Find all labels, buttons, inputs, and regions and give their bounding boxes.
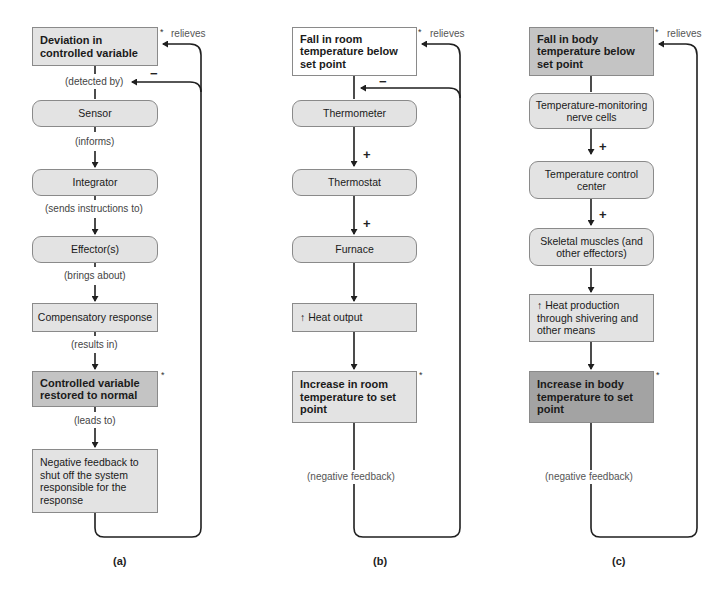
sensor-box: Sensor (32, 100, 158, 127)
asterisk: * (419, 371, 423, 380)
minus-sign: − (150, 68, 158, 80)
heat-output-text: ↑ Heat output (300, 311, 362, 324)
room-temp-increase-box: Increase in room temperature to set poin… (292, 371, 417, 423)
effector-box: Effector(s) (32, 236, 158, 263)
furnace-text: Furnace (335, 243, 374, 256)
integrator-text: Integrator (73, 176, 118, 189)
restored-text: Controlled variable restored to normal (40, 377, 150, 402)
body-temp-fall-box: Fall in body temperature below set point (529, 27, 654, 76)
negative-feedback-label: (negative feedback) (307, 470, 395, 484)
connector-brings-about: (brings about) (63, 270, 127, 282)
thermostat-text: Thermostat (328, 176, 381, 189)
negative-feedback-label: (negative feedback) (545, 470, 633, 484)
restored-box: Controlled variable restored to normal (32, 371, 158, 407)
connector-sends-instructions: (sends instructions to) (44, 203, 144, 215)
body-temp-fall-text: Fall in body temperature below set point (537, 33, 646, 71)
connector-results-in: (results in) (70, 339, 119, 351)
heat-production-box: ↑ Heat production through shivering and … (529, 294, 654, 342)
deviation-text: Deviation in controlled variable (40, 34, 150, 59)
room-temp-increase-text: Increase in room temperature to set poin… (300, 378, 409, 416)
room-temp-fall-box: Fall in room temperature below set point (292, 27, 417, 76)
control-center-text: Temperature control center (530, 168, 653, 193)
connector-detected-by: (detected by) (64, 76, 124, 88)
relieves-label: relieves (430, 28, 464, 40)
relieves-label: relieves (667, 28, 701, 40)
asterisk: * (655, 28, 659, 37)
compensatory-response-text: Compensatory response (38, 311, 152, 324)
deviation-box: Deviation in controlled variable (32, 27, 158, 66)
asterisk: * (418, 28, 422, 37)
body-temp-increase-box: Increase in body temperature to set poin… (529, 371, 654, 423)
asterisk: * (160, 28, 164, 37)
negative-feedback-diagram: Deviation in controlled variable * relie… (0, 0, 725, 590)
thermometer-box: Thermometer (292, 100, 417, 127)
plus-sign: + (363, 218, 371, 230)
relieves-label: relieves (171, 28, 205, 40)
furnace-box: Furnace (292, 236, 417, 263)
control-center-box: Temperature control center (529, 161, 654, 199)
sensor-text: Sensor (78, 107, 111, 120)
integrator-box: Integrator (32, 169, 158, 196)
thermometer-text: Thermometer (323, 107, 386, 120)
plus-sign: + (599, 141, 607, 153)
compensatory-response-box: Compensatory response (32, 303, 158, 332)
caption-b: (b) (373, 555, 387, 567)
nerve-cells-text: Temperature-monitoring nerve cells (530, 99, 653, 124)
heat-output-box: ↑ Heat output (292, 303, 417, 332)
skeletal-muscles-box: Skeletal muscles (and other effectors) (529, 228, 654, 266)
minus-sign: − (379, 76, 387, 88)
heat-production-text: ↑ Heat production through shivering and … (537, 299, 646, 337)
caption-c: (c) (612, 555, 625, 567)
negative-feedback-box: Negative feedback to shut off the system… (32, 449, 158, 513)
negative-feedback-text: Negative feedback to shut off the system… (40, 456, 150, 506)
connector-informs: (informs) (74, 136, 115, 148)
plus-sign: + (599, 209, 607, 221)
thermostat-box: Thermostat (292, 169, 417, 196)
skeletal-muscles-text: Skeletal muscles (and other effectors) (530, 235, 653, 260)
nerve-cells-box: Temperature-monitoring nerve cells (529, 93, 654, 129)
asterisk: * (161, 371, 165, 380)
body-temp-increase-text: Increase in body temperature to set poin… (537, 378, 646, 416)
effector-text: Effector(s) (71, 243, 119, 256)
caption-a: (a) (113, 555, 126, 567)
plus-sign: + (363, 149, 371, 161)
asterisk: * (656, 371, 660, 380)
room-temp-fall-text: Fall in room temperature below set point (300, 33, 409, 71)
connector-leads-to: (leads to) (73, 415, 117, 427)
